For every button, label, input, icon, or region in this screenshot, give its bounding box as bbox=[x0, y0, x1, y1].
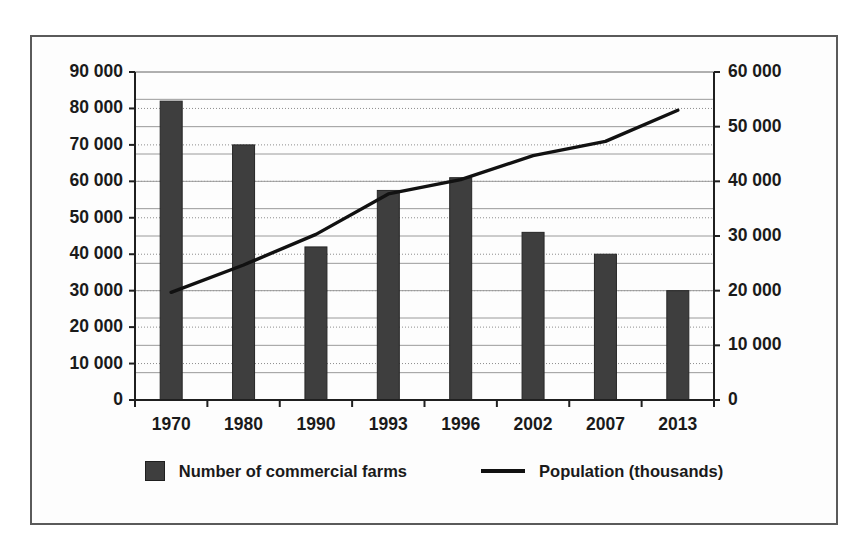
y-axis-right-tick-label: 40 000 bbox=[728, 172, 782, 190]
bars-group bbox=[160, 101, 689, 400]
chart-area: 010 00020 00030 00040 00050 00060 00070 … bbox=[32, 37, 836, 523]
y-axis-left-tick-label: 40 000 bbox=[32, 245, 123, 263]
x-axis-tick-label: 1996 bbox=[425, 416, 497, 434]
legend-label-farms: Number of commercial farms bbox=[179, 462, 407, 481]
y-axis-right-tick-label: 50 000 bbox=[728, 118, 782, 136]
y-axis-left-tick-label: 0 bbox=[32, 391, 123, 409]
y-axis-left-tick-label: 30 000 bbox=[32, 282, 123, 300]
legend-label-population: Population (thousands) bbox=[539, 462, 723, 481]
y-axis-right-tick-label: 0 bbox=[728, 391, 738, 409]
chart-frame: 010 00020 00030 00040 00050 00060 00070 … bbox=[30, 35, 838, 525]
y-axis-left-tick-label: 50 000 bbox=[32, 209, 123, 227]
chart-legend: Number of commercial farms Population (t… bbox=[32, 461, 836, 481]
legend-swatch-icon bbox=[145, 461, 165, 481]
legend-entry-population: Population (thousands) bbox=[481, 462, 723, 481]
y-axis-left-tick-label: 10 000 bbox=[32, 355, 123, 373]
y-axis-left-tick-label: 90 000 bbox=[32, 63, 123, 81]
x-axis-tick-label: 1980 bbox=[207, 416, 279, 434]
plot-svg bbox=[32, 37, 836, 457]
x-axis-tick-label: 2007 bbox=[569, 416, 641, 434]
axes-group bbox=[129, 72, 720, 407]
y-axis-left-tick-label: 70 000 bbox=[32, 136, 123, 154]
y-axis-right-tick-label: 10 000 bbox=[728, 336, 782, 354]
y-axis-right-tick-label: 20 000 bbox=[728, 282, 782, 300]
x-axis-tick-label: 2013 bbox=[642, 416, 714, 434]
y-axis-right-tick-label: 60 000 bbox=[728, 63, 782, 81]
legend-entry-farms: Number of commercial farms bbox=[145, 461, 407, 481]
x-axis-tick-label: 2002 bbox=[497, 416, 569, 434]
x-axis-tick-label: 1993 bbox=[352, 416, 424, 434]
x-axis-tick-label: 1970 bbox=[135, 416, 207, 434]
gridlines bbox=[135, 72, 714, 400]
y-axis-left-tick-label: 60 000 bbox=[32, 172, 123, 190]
y-axis-right-tick-label: 30 000 bbox=[728, 227, 782, 245]
y-axis-left-tick-label: 80 000 bbox=[32, 99, 123, 117]
x-axis-tick-label: 1990 bbox=[280, 416, 352, 434]
y-axis-left-tick-label: 20 000 bbox=[32, 318, 123, 336]
legend-line-icon bbox=[481, 469, 525, 473]
